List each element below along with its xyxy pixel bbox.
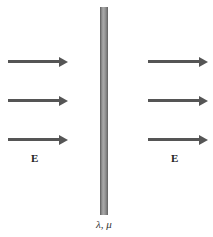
field-arrow-right-1 [148,60,200,63]
field-arrow-left-1 [8,60,60,63]
field-arrow-right-2 [148,99,200,102]
field-arrow-right-3 [148,138,200,141]
charged-rod [100,7,108,215]
rod-label: λ, μ [92,218,116,230]
field-label-right: E [171,152,178,164]
field-arrow-left-2 [8,99,60,102]
field-label-left: E [31,152,38,164]
field-arrow-left-3 [8,138,60,141]
